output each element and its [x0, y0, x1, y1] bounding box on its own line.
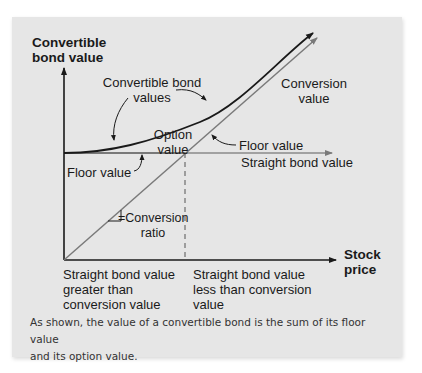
y-axis-label-line1: Convertible — [32, 35, 106, 50]
convertible-bond-values-label: Convertible bond values — [102, 75, 202, 105]
option-value-line1: Option — [148, 127, 198, 142]
x-axis-label-line1: Stock — [344, 247, 381, 262]
floor-value-left-label: Floor value — [67, 165, 131, 180]
region-left-label: Straight bond value greater than convers… — [63, 267, 175, 312]
conversion-ratio-label: =Conversion ratio — [118, 211, 188, 241]
x-axis-label-line2: price — [344, 262, 381, 277]
region-right-line3: value — [193, 297, 312, 312]
region-right-line1: Straight bond value — [193, 267, 312, 282]
y-axis-label-line2: bond value — [32, 50, 106, 65]
option-value-label: Option value — [148, 127, 198, 157]
leader-floor-left — [134, 155, 142, 171]
conversion-value-line1: Conversion — [274, 76, 354, 91]
conversion-value-line2: value — [274, 91, 354, 106]
x-axis-label: Stock price — [344, 247, 381, 277]
conversion-value-label: Conversion value — [274, 76, 354, 106]
leader-floor-right — [212, 135, 236, 145]
floor-value-right-label: Floor value — [239, 138, 303, 153]
option-value-line2: value — [148, 142, 198, 157]
region-left-line1: Straight bond value — [63, 267, 175, 282]
region-left-line3: conversion value — [63, 297, 175, 312]
figure-caption: As shown, the value of a convertible bon… — [30, 314, 390, 365]
convertible-bond-values-line1: Convertible bond — [102, 75, 202, 90]
convertible-bond-values-line2: values — [102, 90, 202, 105]
conversion-ratio-line1: =Conversion — [118, 211, 188, 226]
conversion-ratio-line2: ratio — [118, 226, 188, 241]
y-axis-label: Convertible bond value — [32, 35, 106, 65]
caption-line1: As shown, the value of a convertible bon… — [30, 314, 390, 348]
region-right-label: Straight bond value less than conversion… — [193, 267, 312, 312]
region-left-line2: greater than — [63, 282, 175, 297]
straight-bond-value-label: Straight bond value — [241, 155, 353, 170]
region-right-line2: less than conversion — [193, 282, 312, 297]
caption-line2: and its option value. — [30, 348, 390, 365]
